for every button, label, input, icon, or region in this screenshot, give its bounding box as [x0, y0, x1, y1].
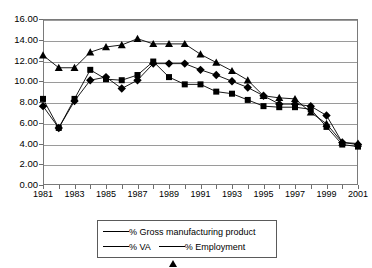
x-tick-label: 1997	[280, 189, 310, 199]
chart-legend: % Gross manufacturing product % VA % Emp…	[97, 220, 277, 258]
x-tick-label: 1991	[186, 189, 216, 199]
legend-entry-va: % VA	[103, 241, 151, 252]
legend-label: % Employment	[185, 242, 246, 252]
x-tick-label: 1981	[28, 189, 58, 199]
x-tick-label: 1985	[91, 189, 121, 199]
x-tick-label: 1993	[217, 189, 247, 199]
diamond-marker-icon	[103, 226, 129, 237]
legend-entry-employment: % Employment	[159, 241, 246, 252]
legend-row-1: % Gross manufacturing product	[103, 224, 271, 239]
x-tick-label: 1995	[249, 189, 279, 199]
x-tick-label: 1999	[312, 189, 342, 199]
legend-row-2: % VA % Employment	[103, 239, 271, 254]
legend-entry-gross-manufacturing-product: % Gross manufacturing product	[103, 226, 256, 237]
line-chart: 0.002.004.006.008.0010.0012.0014.0016.00…	[0, 0, 372, 268]
legend-label: % Gross manufacturing product	[129, 227, 256, 237]
x-tick-label: 1987	[123, 189, 153, 199]
x-tick-label: 2001	[343, 189, 372, 199]
legend-label: % VA	[129, 242, 151, 252]
x-tick-label: 1983	[60, 189, 90, 199]
x-tick-label: 1989	[154, 189, 184, 199]
square-marker-icon	[103, 241, 129, 252]
triangle-marker-icon	[159, 241, 185, 252]
